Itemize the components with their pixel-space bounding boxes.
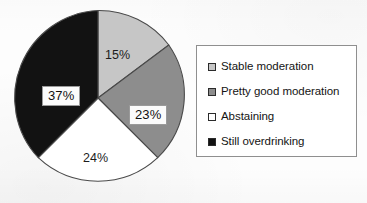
pie-label-stable-moderation: 15%: [105, 49, 130, 62]
pie-label-still-overdrinking: 37%: [42, 86, 80, 106]
square-swatch-icon: [208, 113, 216, 121]
legend-item-abstaining[interactable]: Abstaining: [208, 105, 356, 129]
chart-legend: Stable moderation Pretty good moderation…: [196, 45, 357, 157]
square-swatch-icon: [208, 63, 216, 71]
square-swatch-icon: [208, 88, 216, 96]
pie-label-abstaining: 24%: [83, 152, 108, 165]
legend-item-stable-moderation[interactable]: Stable moderation: [208, 55, 356, 79]
legend-item-pretty-good-moderation[interactable]: Pretty good moderation: [208, 80, 356, 104]
legend-item-still-overdrinking[interactable]: Still overdrinking: [208, 130, 356, 154]
pie-chart-figure: 15% 23% 24% 37% Stable moderation Pretty…: [0, 0, 367, 203]
legend-item-label: Abstaining: [221, 111, 274, 123]
pie-chart-plot-area: 15% 23% 24% 37%: [9, 9, 187, 187]
legend-item-label: Still overdrinking: [221, 136, 304, 148]
legend-item-label: Pretty good moderation: [221, 86, 339, 98]
square-swatch-icon: [208, 138, 216, 146]
pie-label-pretty-good-moderation: 23%: [129, 105, 167, 125]
legend-item-label: Stable moderation: [221, 61, 314, 73]
